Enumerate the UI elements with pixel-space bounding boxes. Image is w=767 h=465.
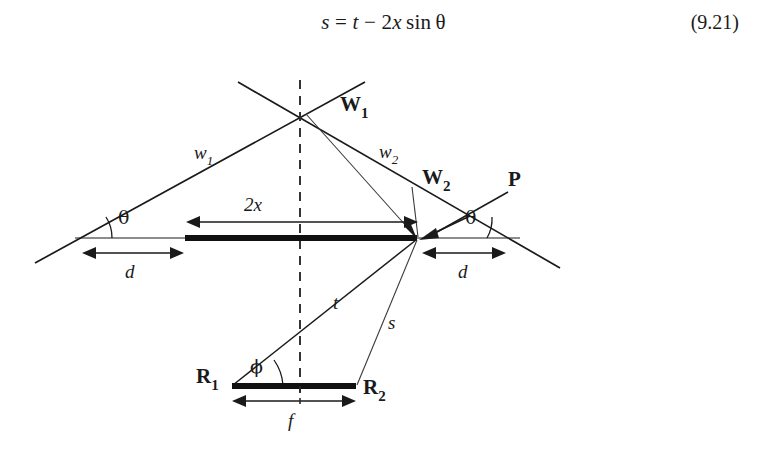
dimension-d-left — [82, 247, 184, 259]
equation-minus: − 2 — [359, 10, 393, 34]
label-s: s — [388, 312, 395, 333]
label-d-right: d — [458, 261, 468, 282]
label-theta-left: θ — [118, 206, 129, 228]
label-R2: R2 — [363, 375, 386, 404]
page-root: s = t − 2x sin θ (9.21) — [0, 0, 767, 465]
label-R1: R1 — [196, 364, 219, 393]
equation-number: (9.21) — [691, 11, 739, 34]
dimension-d-right — [422, 247, 506, 259]
figure-svg: w1 w2 W1 W2 P θ θ d d 2x t s ϕ R1 R2 f — [0, 56, 767, 465]
label-d-left: d — [125, 261, 135, 282]
equation-lhs: s — [321, 10, 329, 34]
label-W2-bold: W2 — [422, 165, 451, 194]
equation-row: s = t − 2x sin θ (9.21) — [0, 10, 767, 56]
label-W1-bold: W1 — [340, 92, 369, 121]
label-f: f — [288, 410, 296, 431]
equation-relation: = — [330, 10, 353, 34]
phi-arc — [274, 360, 283, 385]
theta-left-arc — [106, 217, 112, 238]
label-phi: ϕ — [250, 355, 263, 377]
dimension-2x — [186, 216, 418, 228]
label-w2-lower: w2 — [379, 141, 399, 167]
label-P-bold: P — [508, 167, 521, 191]
label-t: t — [333, 292, 339, 313]
figure-container: w1 w2 W1 W2 P θ θ d d 2x t s ϕ R1 R2 f — [0, 56, 767, 465]
dimension-f — [232, 395, 356, 407]
w2-arrowhead — [419, 228, 439, 240]
range-s-line — [357, 240, 417, 385]
label-theta-right: θ — [465, 206, 476, 228]
equation-rhs-x: x — [392, 10, 402, 34]
label-w1-lower: w1 — [194, 142, 213, 168]
equation-expression: s = t − 2x sin θ — [0, 10, 767, 35]
label-2x: 2x — [244, 194, 263, 215]
equation-rhs-sin: sin θ — [402, 10, 446, 34]
